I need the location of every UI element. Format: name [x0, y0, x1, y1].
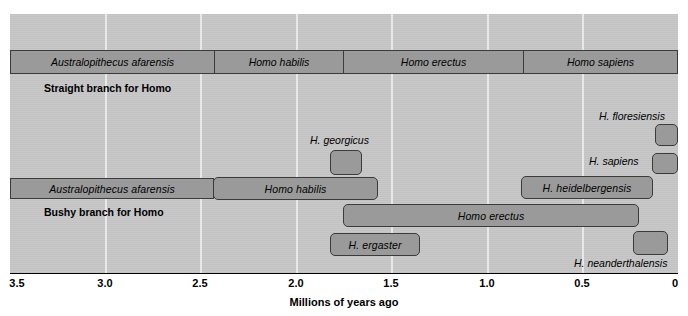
- label-h-floresiensis: H. floresiensis: [599, 110, 665, 122]
- bar-h-ergaster[interactable]: H. ergaster: [330, 233, 420, 256]
- straight-segment-homo-habilis[interactable]: Homo habilis: [215, 51, 344, 73]
- axis-tick-1-5: 1.5: [383, 277, 398, 289]
- axis-line: [10, 273, 678, 274]
- bushy-branch-caption: Bushy branch for Homo: [44, 206, 164, 218]
- axis-tick-3-0: 3.0: [97, 277, 112, 289]
- straight-segment-homo-sapiens[interactable]: Homo sapiens: [524, 51, 677, 73]
- bar-australopithecus-afarensis[interactable]: Australopithecus afarensis: [10, 178, 214, 199]
- bar-h-floresiensis[interactable]: [655, 124, 678, 146]
- bar-h-neanderthalensis[interactable]: [633, 231, 668, 255]
- straight-branch-strip: Australopithecus afarensis Homo habilis …: [10, 50, 678, 74]
- axis-tick-0-5: 0.5: [574, 277, 589, 289]
- bar-h-heidelbergensis[interactable]: H. heidelbergensis: [521, 176, 653, 199]
- bar-homo-habilis[interactable]: Homo habilis: [213, 177, 378, 200]
- straight-segment-homo-erectus[interactable]: Homo erectus: [344, 51, 524, 73]
- axis-tick-2-5: 2.5: [192, 277, 207, 289]
- evolution-timeline-figure: Australopithecus afarensis Homo habilis …: [0, 0, 688, 316]
- straight-segment-australopithecus-afarensis[interactable]: Australopithecus afarensis: [11, 51, 215, 73]
- axis-tick-2-0: 2.0: [288, 277, 303, 289]
- label-h-neanderthalensis: H. neanderthalensis: [574, 257, 667, 269]
- axis-tick-0: 0: [672, 277, 678, 289]
- axis-title: Millions of years ago: [0, 296, 688, 308]
- label-h-sapiens: H. sapiens: [589, 155, 639, 167]
- bar-homo-erectus[interactable]: Homo erectus: [343, 204, 639, 227]
- bar-h-sapiens[interactable]: [652, 153, 678, 174]
- straight-branch-caption: Straight branch for Homo: [44, 82, 171, 94]
- label-h-georgicus: H. georgicus: [310, 134, 369, 146]
- axis-tick-3-5: 3.5: [9, 277, 24, 289]
- axis-tick-1-0: 1.0: [479, 277, 494, 289]
- bar-h-georgicus[interactable]: [330, 150, 362, 175]
